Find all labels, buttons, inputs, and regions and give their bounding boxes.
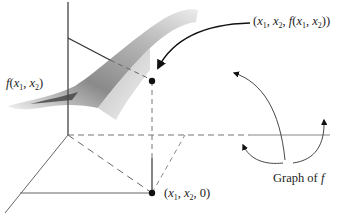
surface-height-label: f(x1, x2) — [6, 77, 43, 92]
dashed-projection — [152, 135, 185, 193]
graph-arrow-right — [293, 120, 324, 163]
level-line — [68, 38, 110, 60]
base-point — [149, 190, 155, 196]
graph-arrow-mid — [243, 145, 283, 163]
base-point-label: (x1, x2, 0) — [164, 187, 210, 202]
graph-arrow-left — [234, 73, 285, 160]
surface — [8, 9, 198, 120]
surface-point-label: (x1, x2, f(x1, x2)) — [253, 15, 330, 30]
surface-point — [149, 78, 155, 84]
graph-caption: Graph of f — [273, 172, 324, 185]
dashed-diagonal — [68, 135, 152, 193]
x1-axis — [5, 135, 68, 213]
